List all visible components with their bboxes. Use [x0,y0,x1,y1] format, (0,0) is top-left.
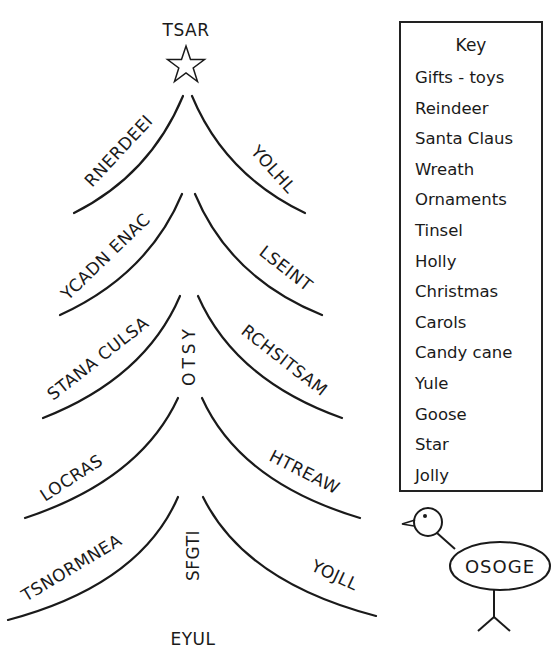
key-item: Wreath [415,155,541,186]
key-item: Candy cane [415,338,541,369]
key-item: Yule [415,369,541,400]
tree-top-word: TSAR [162,20,210,40]
scrambled-word-tier3-right: RCHSITSAM [238,320,332,400]
key-item: Ornaments [415,185,541,216]
key-item: Carols [415,308,541,339]
key-title: Key [401,35,541,55]
key-item: Goose [415,400,541,431]
trunk-word-upper: OTSY [179,325,199,386]
key-item: Reindeer [415,94,541,125]
goose-head [414,508,442,536]
scrambled-word-tier5-left: TSNORMNEA [17,530,125,606]
scrambled-word-tier4-left: LOCRAS [36,450,106,505]
key-item: Jolly [415,461,541,492]
answer-key-box: Key Gifts - toys Reindeer Santa Claus Wr… [399,21,543,492]
key-item: Star [415,430,541,461]
key-item: Christmas [415,277,541,308]
goose-foot-left [478,617,494,631]
key-item: Tinsel [415,216,541,247]
tree-bottom-word: EYUL [170,629,215,649]
goose-eye [423,514,427,518]
scrambled-word-tier4-right: HTREAW [266,446,343,498]
goose-neck [437,533,455,549]
scrambled-word-tier5-right: YOJLL [307,555,361,594]
key-word-list: Gifts - toys Reindeer Santa Claus Wreath… [401,63,541,491]
goose-scrambled-word: OSOGE [465,556,535,577]
key-item: Santa Claus [415,124,541,155]
star-icon [168,46,205,82]
goose-foot-right [494,617,510,631]
scrambled-word-tier1-right: YOLHL [246,141,300,198]
key-item: Gifts - toys [415,63,541,94]
scrambled-word-tier1-left: RNERDEEI [80,111,156,191]
scrambled-word-tier2-right: LSEINT [256,241,317,295]
trunk-word-lower: SFGTI [183,530,203,581]
key-item: Holly [415,247,541,278]
